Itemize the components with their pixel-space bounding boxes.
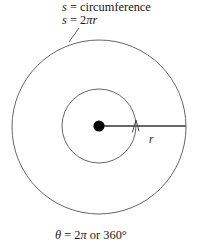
- diagram-canvas: [0, 0, 201, 248]
- angle-conjunction: or: [87, 228, 104, 242]
- arc-length-formula-label: s = 2πr: [62, 14, 97, 27]
- circle-diagram-figure: s = circumference s = 2πr r θ = 2π or 36…: [0, 0, 201, 248]
- angle-equals: =: [61, 228, 74, 242]
- angle-label: θ = 2π or 360°: [55, 229, 127, 242]
- angle-degrees-value: 360°: [103, 228, 127, 242]
- radius-symbol: r: [149, 133, 153, 145]
- radius-label: r: [149, 133, 153, 145]
- circumference-relation: = circumference: [67, 0, 151, 14]
- arc-length-equals: =: [67, 13, 80, 27]
- label-leader-line: [69, 28, 79, 42]
- center-point-dot: [93, 120, 104, 131]
- arc-length-radius-symbol: r: [92, 13, 97, 27]
